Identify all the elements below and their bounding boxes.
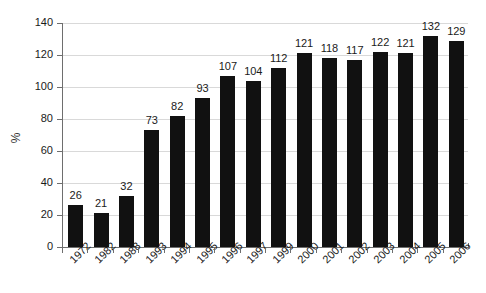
x-axis-tick [113,248,114,253]
bar [220,76,235,247]
x-axis-tick [87,248,88,253]
y-axis-tick [57,183,62,184]
x-axis-tick [290,248,291,253]
y-axis-tick-label: 0 [13,241,53,252]
y-axis-tick [57,119,62,120]
y-axis-line [62,23,63,248]
bar-value-label: 82 [157,101,197,112]
y-axis-tick-label: 140 [13,17,53,28]
bar-value-label: 112 [259,53,299,64]
x-axis-tick [316,248,317,253]
bar-value-label: 129 [436,26,476,37]
x-axis-tick [265,248,266,253]
bar [144,130,159,247]
x-axis-tick [164,248,165,253]
bar-value-label: 104 [233,66,273,77]
bar [119,196,134,247]
bar [195,98,210,247]
bar [449,41,464,247]
y-axis-tick-label: 40 [13,177,53,188]
bar [398,53,413,247]
x-axis-tick [189,248,190,253]
y-axis-tick-label: 100 [13,81,53,92]
y-axis-tick [57,55,62,56]
y-axis-tick [57,151,62,152]
y-axis-tick-label: 120 [13,49,53,60]
y-axis-tick-label: 60 [13,145,53,156]
y-axis-tick [57,87,62,88]
x-axis-tick [240,248,241,253]
bar-value-label: 121 [386,38,426,49]
x-axis-tick [138,248,139,253]
x-axis-tick [417,248,418,253]
bar [347,60,362,247]
y-axis-tick [57,215,62,216]
x-axis-tick [341,248,342,253]
bar-value-label: 32 [106,181,146,192]
x-axis-tick [214,248,215,253]
bar-chart: % 02040608010012014026197221198232198873… [0,0,486,293]
bar-value-label: 21 [81,198,121,209]
bar-value-label: 93 [183,83,223,94]
x-axis-tick [443,248,444,253]
x-axis-tick [367,248,368,253]
bar-value-label: 73 [132,115,172,126]
bar [246,81,261,247]
y-axis-tick-label: 20 [13,209,53,220]
bar [322,58,337,247]
bar [170,116,185,247]
bar [297,53,312,247]
gridline [62,23,468,24]
bar [68,205,83,247]
bar [271,68,286,247]
bar [423,36,438,247]
y-axis-tick [57,23,62,24]
x-axis-tick [62,248,63,253]
bar [373,52,388,247]
y-axis-tick-label: 80 [13,113,53,124]
x-axis-tick [392,248,393,253]
